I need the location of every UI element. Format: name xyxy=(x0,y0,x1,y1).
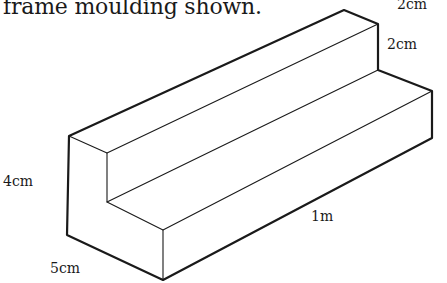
label-total-height: 4cm xyxy=(3,173,33,189)
label-total-width: 5cm xyxy=(50,260,80,276)
moulding-drawing xyxy=(0,0,447,283)
edge-top-inner xyxy=(107,24,378,153)
label-top-width: 2cm xyxy=(397,0,427,12)
diagram-canvas: frame moulding shown. 2cm 2cm 4cm 5cm 1m xyxy=(0,0,447,283)
label-step-height: 2cm xyxy=(387,36,417,52)
outline xyxy=(67,10,432,280)
label-length: 1m xyxy=(311,208,333,224)
edge-inner-corner xyxy=(107,70,378,202)
